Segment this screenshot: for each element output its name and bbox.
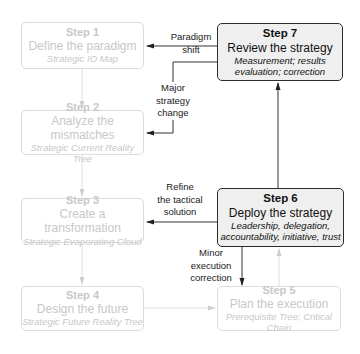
step-subtitle-line-1: Measurement; results (234, 55, 325, 66)
label-line: Paradigm (166, 31, 216, 44)
step-title: Plan the execution (230, 297, 329, 311)
label-line: change (150, 107, 196, 120)
step-subtitle-line-2: accountability, initiative, trust (220, 231, 340, 242)
label-line: Minor (183, 247, 239, 260)
label-refine-tactical: Refine the tactical solution (150, 181, 210, 219)
label-line: execution (183, 260, 239, 273)
step-number: Step 2 (66, 101, 99, 114)
step-title: Design the future (37, 302, 128, 316)
step-2-box: Step 2 Analyze the mismatches Strategic … (21, 110, 144, 155)
label-major-strategy-change: Major strategy change (150, 82, 196, 120)
step-number: Step 4 (66, 289, 99, 302)
step-title: Analyze the mismatches (22, 114, 143, 142)
step-3-box: Step 3 Create a transformation Strategic… (21, 198, 144, 243)
step-title: Review the strategy (227, 41, 332, 55)
step-number: Step 3 (66, 194, 99, 207)
step-5-box: Step 5 Plan the execution Prerequisite T… (217, 286, 341, 331)
step-number: Step 1 (66, 26, 99, 39)
label-line: strategy (150, 95, 196, 108)
step-number: Step 6 (263, 192, 298, 206)
step-subtitle: Strategic Future Reality Tree (22, 316, 143, 327)
step-1-box: Step 1 Define the paradigm Strategic IO … (21, 22, 144, 69)
label-minor-execution: Minor execution correction (183, 247, 239, 285)
step-subtitle: Strategic Evaporating Cloud (23, 236, 141, 247)
label-line: Refine (150, 181, 210, 194)
step-number: Step 5 (262, 284, 295, 297)
label-paradigm-shift: Paradigm shift (166, 31, 216, 56)
step-number: Step 7 (263, 27, 298, 41)
step-subtitle: Strategic IO Map (47, 53, 118, 64)
step-title: Deploy the strategy (229, 206, 332, 220)
step-subtitle: Strategic Current Reality Tree (22, 142, 143, 164)
step-subtitle: Prerequisite Tree; Critical Chain (218, 311, 340, 333)
label-line: Major (150, 82, 196, 95)
step-subtitle-line-1: Leadership, delegation, (231, 220, 330, 231)
step-4-box: Step 4 Design the future Strategic Futur… (21, 286, 144, 331)
label-line: the tactical (150, 194, 210, 207)
label-line: correction (183, 272, 239, 285)
step-subtitle-line-2: evaluation; correction (235, 66, 325, 77)
step-title: Define the paradigm (28, 39, 136, 53)
label-line: solution (150, 206, 210, 219)
step-7-box: Step 7 Review the strategy Measurement; … (217, 23, 343, 81)
step-title: Create a transformation (22, 207, 143, 235)
step-6-box: Step 6 Deploy the strategy Leadership, d… (217, 188, 344, 247)
label-line: shift (166, 44, 216, 57)
